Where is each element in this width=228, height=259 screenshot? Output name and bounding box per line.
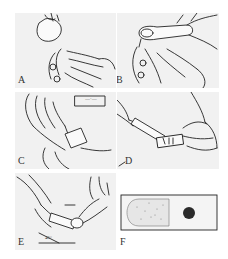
panel-label-f: F (120, 237, 126, 247)
angle-label: 45° (45, 235, 52, 240)
spreading-smear-illustration (15, 173, 116, 250)
panel-label-e: E (18, 237, 24, 247)
panel-label-c: C (18, 156, 25, 166)
panel-label-a: A (18, 75, 25, 85)
finished-smear-slide (117, 173, 219, 250)
drop-on-slide-illustration (15, 92, 116, 169)
panel-label-b: B (117, 75, 123, 85)
smear-area (127, 199, 169, 226)
panel-label-d: D (125, 156, 132, 166)
panel-b: B (117, 13, 219, 88)
panel-a: A (15, 13, 116, 88)
panel-f: F (117, 173, 219, 250)
finger-prick-illustration (117, 13, 219, 88)
slide-tag: —·— (85, 96, 97, 101)
panel-d: D (117, 92, 219, 169)
blood-drop (183, 207, 195, 219)
spreader-slide-illustration (117, 92, 219, 169)
panel-c: —·— C (15, 92, 116, 169)
panel-e: 45° E (15, 173, 116, 250)
hand-wiping-finger-illustration (15, 13, 116, 88)
